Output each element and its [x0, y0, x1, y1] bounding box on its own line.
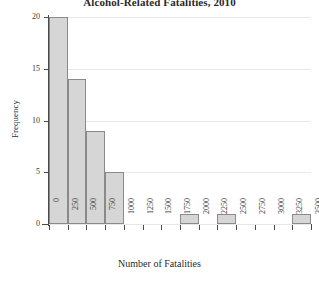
x-tick-mark [49, 225, 50, 230]
chart-title: Alcohol-Related Fatalities, 2010 [0, 0, 319, 8]
x-tick-label: 1250 [146, 198, 155, 232]
x-tick-label: 1750 [183, 198, 192, 232]
y-tick-label: 5 [14, 168, 40, 176]
x-tick-mark [105, 225, 106, 230]
x-tick-label: 750 [108, 198, 117, 232]
x-tick-mark [124, 225, 125, 230]
y-tick-label: 15 [14, 65, 40, 73]
plot-area [49, 17, 311, 224]
x-tick-mark [292, 225, 293, 230]
x-tick-label: 250 [71, 198, 80, 232]
gridline [49, 17, 311, 18]
x-tick-mark [180, 225, 181, 230]
y-tick-label: 20 [14, 13, 40, 21]
x-tick-mark [199, 225, 200, 230]
x-tick-mark [217, 225, 218, 230]
gridline [49, 69, 311, 70]
y-tick-label: 0 [14, 220, 40, 228]
x-tick-mark [255, 225, 256, 230]
x-tick-label: 1500 [164, 198, 173, 232]
x-tick-label: 2500 [239, 198, 248, 232]
x-tick-label: 1000 [127, 198, 136, 232]
x-tick-label: 3250 [295, 198, 304, 232]
x-tick-mark [161, 225, 162, 230]
x-axis-label: Number of Fatalities [0, 258, 319, 269]
chart-screenshot: Alcohol-Related Fatalities, 2010 Frequen… [0, 0, 319, 281]
x-tick-mark [236, 225, 237, 230]
gridline [49, 121, 311, 122]
x-tick-label: 3000 [277, 198, 286, 232]
x-tick-label: 2000 [202, 198, 211, 232]
x-tick-mark [311, 225, 312, 230]
x-tick-mark [274, 225, 275, 230]
x-tick-mark [86, 225, 87, 230]
x-tick-label: 2750 [258, 198, 267, 232]
x-tick-label: 3500 [314, 198, 319, 232]
x-tick-label: 500 [89, 198, 98, 232]
x-tick-mark [143, 225, 144, 230]
y-tick-label: 10 [14, 117, 40, 125]
x-tick-mark [68, 225, 69, 230]
x-tick-label: 0 [52, 198, 61, 232]
x-tick-label: 2250 [220, 198, 229, 232]
histogram-bar [49, 17, 68, 224]
